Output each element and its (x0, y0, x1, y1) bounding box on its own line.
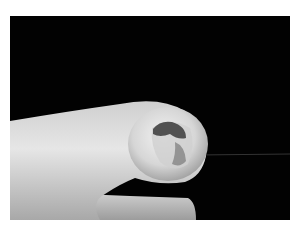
finger-illustration (10, 16, 290, 220)
clinical-photo (10, 16, 290, 220)
thread-line (198, 154, 290, 155)
